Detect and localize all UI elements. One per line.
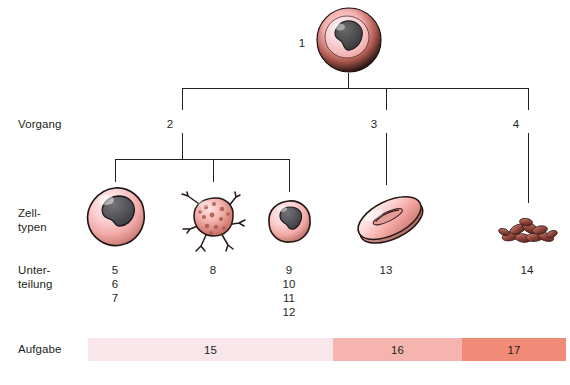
- row-label-vorgang: Vorgang: [18, 117, 62, 131]
- connector-drop-9: [289, 159, 290, 192]
- task-bar-segment-15-label: 15: [204, 344, 217, 356]
- stem-cell: [316, 7, 382, 73]
- megakaryocyte-cell: [176, 189, 250, 254]
- row-label-aufgabe: Aufgabe: [18, 342, 62, 356]
- task-bar-segment-16-label: 16: [391, 344, 404, 356]
- connector-drop-8: [213, 159, 214, 182]
- row-label-unterteilung: Unter- teilung: [18, 263, 53, 291]
- task-bar-segment-15: 15: [88, 338, 333, 361]
- erythrocyte-cell: [352, 188, 428, 250]
- subdivision-numbers-col5: 14: [512, 263, 542, 277]
- connector-drop-5: [115, 159, 116, 182]
- node-number-4: 4: [508, 117, 524, 131]
- lymphocyte-cell: [267, 199, 312, 244]
- node-number-2: 2: [162, 117, 178, 131]
- connector-drop-4-lower: [528, 133, 529, 203]
- connector-drop-3-upper: [386, 88, 387, 110]
- task-bar-segment-17: 17: [462, 338, 566, 361]
- task-bar-segment-16: 16: [333, 338, 462, 361]
- task-bar: 15 16 17: [88, 338, 566, 361]
- monocyte-cell: [85, 186, 147, 248]
- connector-drop-2-upper: [182, 88, 183, 110]
- hematopoiesis-diagram: Vorgang Zell- typen Unter- teilung Aufga…: [0, 0, 570, 385]
- node-number-1: 1: [290, 36, 314, 50]
- row-label-zelltypen: Zell- typen: [18, 206, 47, 234]
- connector-level2-horizontal: [115, 159, 289, 160]
- connector-stem-to-level1: [348, 73, 349, 88]
- platelets-cluster: [497, 216, 559, 244]
- task-bar-segment-17-label: 17: [508, 344, 521, 356]
- subdivision-numbers-col1: 5 6 7: [100, 263, 130, 305]
- subdivision-numbers-col3: 9 10 11 12: [274, 263, 304, 319]
- node-number-3: 3: [366, 117, 382, 131]
- connector-drop-3-lower: [386, 133, 387, 185]
- connector-level1-horizontal: [182, 88, 529, 89]
- subdivision-numbers-col4: 13: [371, 263, 401, 277]
- subdivision-numbers-col2: 8: [198, 263, 228, 277]
- connector-drop-2-lower: [182, 133, 183, 159]
- connector-drop-4-upper: [528, 88, 529, 110]
